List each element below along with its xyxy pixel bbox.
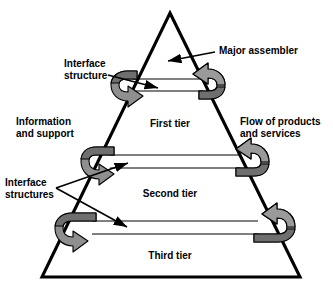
label-tier-3: Third tier — [148, 250, 191, 261]
label-major-assembler: Major assembler — [219, 45, 298, 56]
label-flow-of-products-line1: Flow of products — [240, 116, 321, 127]
diagram-canvas: Major assembler Interface structure Info… — [0, 0, 333, 287]
label-interface-structure-line1: Interface — [64, 58, 106, 69]
label-interface-structure-line2: structure — [64, 70, 108, 81]
label-information-and-support-line1: Information — [16, 116, 71, 127]
label-information-and-support-line2: and support — [16, 128, 74, 139]
label-tier-2: Second tier — [143, 188, 198, 199]
label-interface-structures-line2: structures — [5, 189, 54, 200]
label-flow-of-products-line2: and services — [240, 128, 301, 139]
pyramid-diagram: Major assembler Interface structure Info… — [0, 0, 333, 287]
label-interface-structures-line1: Interface — [5, 177, 47, 188]
label-tier-1: First tier — [150, 118, 190, 129]
